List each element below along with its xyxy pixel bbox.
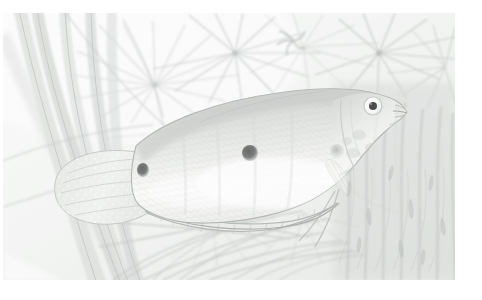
photograph — [3, 13, 455, 280]
photo-canvas — [3, 13, 455, 280]
photo-page: A pale silvery gourami fish facing right… — [0, 0, 482, 300]
photo-wash — [3, 13, 455, 280]
